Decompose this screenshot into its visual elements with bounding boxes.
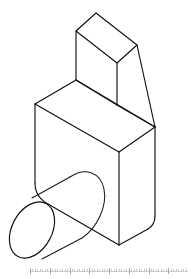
isometric-part-drawing — [0, 0, 191, 279]
scale-tick — [134, 269, 135, 272]
scale-tick — [60, 269, 61, 272]
scale-tick — [131, 269, 132, 272]
scale-tick — [139, 269, 140, 272]
scale-tick — [40, 269, 41, 272]
scale-tick — [102, 269, 103, 272]
scale-tick — [161, 269, 162, 272]
scale-tick — [45, 269, 46, 272]
scale-tick — [35, 269, 36, 272]
scale-tick — [158, 269, 159, 272]
scale-tick — [87, 269, 88, 272]
scale-ticks — [30, 268, 188, 276]
scale-tick — [149, 268, 150, 274]
scale-tick — [124, 269, 125, 272]
scale-tick — [186, 269, 187, 272]
scale-tick — [62, 269, 63, 272]
scale-tick — [89, 268, 90, 274]
scale-tick — [55, 269, 56, 272]
scale-tick — [116, 269, 117, 272]
scale-tick — [181, 269, 182, 272]
scale-tick — [79, 269, 80, 272]
scale-tick — [129, 268, 130, 274]
drawing-canvas — [0, 0, 191, 279]
scale-tick — [183, 269, 184, 272]
scale-tick — [171, 269, 172, 272]
scale-tick — [30, 268, 31, 274]
scale-tick — [77, 269, 78, 272]
scale-tick — [121, 269, 122, 272]
scale-tick — [82, 269, 83, 272]
scale-tick — [176, 269, 177, 272]
scale-tick — [37, 269, 38, 272]
scale-tick — [74, 269, 75, 272]
scale-tick — [107, 269, 108, 272]
scale-tick — [119, 269, 120, 272]
scale-tick — [126, 269, 127, 272]
scale-tick — [144, 269, 145, 272]
scale-tick — [47, 269, 48, 272]
scale-tick — [57, 269, 58, 272]
scale-tick — [166, 269, 167, 272]
scale-tick — [42, 269, 43, 272]
bottom-scale-bar — [30, 268, 188, 276]
scale-tick — [70, 268, 71, 274]
scale-tick — [52, 269, 53, 272]
part-faces — [0, 13, 155, 266]
scale-tick — [151, 269, 152, 272]
scale-tick — [32, 269, 33, 272]
scale-tick — [99, 269, 100, 272]
scale-tick — [109, 268, 110, 274]
scale-tick — [72, 269, 73, 272]
scale-tick — [92, 269, 93, 272]
scale-tick — [156, 269, 157, 272]
scale-tick — [153, 269, 154, 272]
scale-tick — [168, 268, 169, 274]
scale-tick — [94, 269, 95, 272]
scale-tick — [173, 269, 174, 272]
scale-tick — [146, 269, 147, 272]
scale-tick — [50, 268, 51, 274]
scale-tick — [163, 269, 164, 272]
scale-tick — [65, 269, 66, 272]
scale-tick — [141, 269, 142, 272]
scale-tick — [97, 269, 98, 272]
scale-tick — [67, 269, 68, 272]
scale-tick — [114, 269, 115, 272]
scale-tick — [111, 269, 112, 272]
scale-tick — [84, 269, 85, 272]
scale-tick — [136, 269, 137, 272]
scale-tick — [178, 269, 179, 272]
scale-tick — [104, 269, 105, 272]
